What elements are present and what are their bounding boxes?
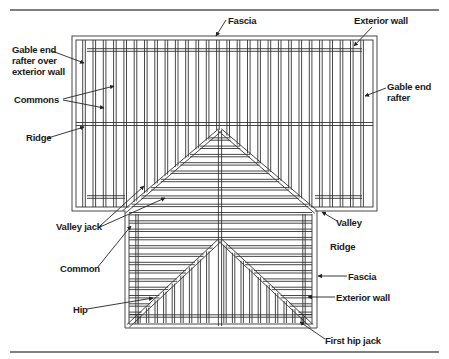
arrow-valley [322,212,337,221]
label-exterior-wall-right: Exterior wall [336,292,390,303]
label-line: rafter over [12,55,65,66]
label-line: rafter [387,92,431,103]
label-gable-end-rafter: Gable end rafter [387,81,431,103]
label-valley: Valley [336,217,362,228]
label-line: Gable end [387,81,431,92]
label-first-hip-jack: First hip jack [325,335,381,346]
label-hip: Hip [73,304,88,315]
label-gable-end-over-wall: Gable end rafter over exterior wall [12,44,65,77]
label-line: Gable end [12,44,65,55]
label-commons: Commons [14,94,59,105]
roof-framing-drawing [0,0,449,359]
label-fascia-top: Fascia [228,15,256,26]
label-fascia-right: Fascia [348,271,376,282]
label-exterior-wall-top: Exterior wall [354,15,408,26]
label-ridge-left: Ridge [26,132,51,143]
label-ridge-right: Ridge [330,241,355,252]
label-line: exterior wall [12,66,65,77]
label-valley-jack: Valley jack [56,221,102,232]
label-common: Common [60,263,100,274]
arrow-fascia-top [216,20,226,36]
